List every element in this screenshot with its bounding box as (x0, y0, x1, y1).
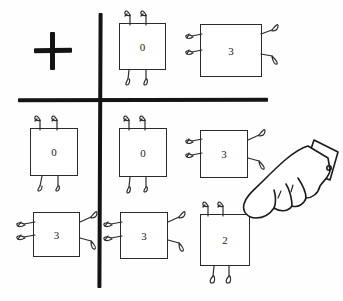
legs-top (115, 114, 171, 130)
legs-bottom (26, 175, 82, 193)
creature-tile-r2c1[interactable]: 0 (30, 128, 78, 176)
creature-tile-r3c2[interactable]: 3 (120, 212, 168, 259)
pointing-hand-cursor[interactable] (238, 128, 342, 234)
hand-drawing (238, 128, 342, 234)
tile-digit: 0 (30, 128, 78, 176)
legs-bottom (115, 69, 171, 87)
legs-bottom (115, 176, 171, 194)
legs-left (102, 210, 122, 258)
tile-digit: 0 (119, 128, 167, 177)
legs-left (15, 210, 35, 258)
tile-digit: 3 (120, 212, 168, 259)
legs-top (115, 9, 171, 25)
creature-tile-r2c2[interactable]: 0 (119, 128, 167, 177)
plus-horizontal-bar (34, 48, 72, 53)
legs-right (78, 204, 100, 260)
legs-right (260, 20, 280, 78)
creature-tile-r3c1[interactable]: 3 (33, 212, 80, 257)
tile-digit: 0 (119, 23, 166, 70)
legs-left (184, 22, 202, 76)
legs-right (166, 204, 188, 262)
creature-tile-r1c3[interactable]: 3 (200, 24, 262, 77)
tile-digit: 3 (200, 24, 262, 77)
legs-left (184, 128, 202, 178)
tile-digit: 3 (33, 212, 80, 257)
horizontal-divider (18, 98, 268, 102)
legs-bottom (196, 265, 254, 285)
legs-top (26, 114, 82, 130)
plus-symbol (34, 32, 72, 70)
puzzle-canvas: 0 3 (0, 0, 343, 301)
creature-tile-r1c2[interactable]: 0 (119, 23, 166, 70)
